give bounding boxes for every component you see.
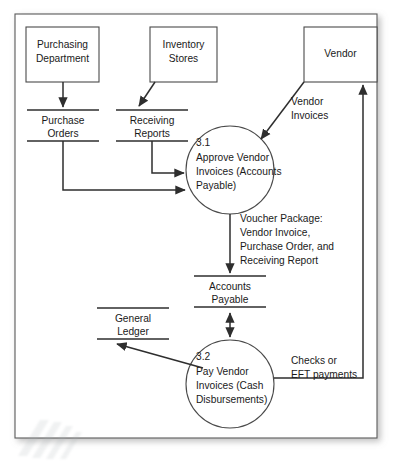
process-3-1-label-line-2: Invoices (Accounts	[196, 166, 282, 177]
process-3-2: 3.2 Pay Vendor Invoices (Cash Disburseme…	[186, 340, 274, 428]
entity-vendor: Vendor	[304, 27, 377, 82]
accounts-payable-label-line-2: Payable	[212, 294, 249, 305]
process-3-2-label-line-1: Pay Vendor	[196, 366, 249, 377]
receiving-reports-label-line-1: Receiving	[130, 115, 175, 126]
voucher-package-label-line-4: Receiving Report	[240, 255, 318, 266]
voucher-package-label-line-1: Voucher Package:	[240, 213, 323, 224]
vendor-invoices-label-line-2: Invoices	[291, 110, 328, 121]
accounts-payable-label-line-1: Accounts	[209, 281, 251, 292]
receiving-reports-label-line-2: Reports	[134, 128, 170, 139]
diagram-canvas: Purchasing Department Inventory Stores V…	[0, 0, 395, 465]
purchasing-department-label-line-2: Department	[36, 53, 89, 64]
inventory-stores-label-line-1: Inventory	[163, 39, 206, 50]
process-3-1-number: 3.1	[196, 137, 210, 148]
checks-or-eft-payments-label-line-1: Checks or	[291, 355, 337, 366]
purchasing-department-label-line-1: Purchasing	[37, 39, 88, 50]
process-3-1-label-line-1: Approve Vendor	[196, 152, 270, 163]
data-flow-diagram: Purchasing Department Inventory Stores V…	[0, 0, 395, 465]
voucher-package-label-line-3: Purchase Order, and	[240, 241, 334, 252]
general-ledger-label-line-1: General	[115, 313, 151, 324]
process-3-2-label-line-2: Invoices (Cash	[196, 380, 263, 391]
process-3-1-label-line-3: Payable)	[196, 180, 236, 191]
checks-or-eft-payments-label-line-2: EFT payments	[291, 369, 357, 380]
inventory-stores-label-line-2: Stores	[169, 53, 198, 64]
process-3-2-number: 3.2	[196, 351, 210, 362]
vendor-label: Vendor	[324, 48, 357, 59]
vendor-invoices-label-line-1: Vendor	[291, 96, 324, 107]
entity-inventory-stores: Inventory Stores	[150, 27, 217, 82]
process-3-2-label-line-3: Disbursements)	[196, 394, 267, 405]
purchase-orders-label-line-2: Orders	[47, 128, 78, 139]
purchase-orders-label-line-1: Purchase	[41, 115, 84, 126]
general-ledger-label-line-2: Ledger	[117, 326, 149, 337]
entity-purchasing-department: Purchasing Department	[26, 27, 99, 82]
voucher-package-label-line-2: Vendor Invoice,	[240, 227, 310, 238]
